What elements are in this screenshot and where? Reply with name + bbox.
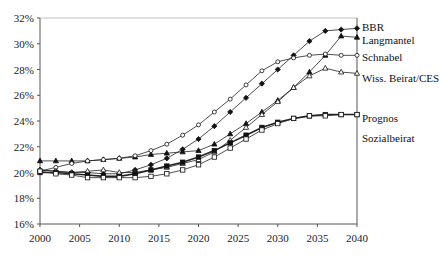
open-square-marker-icon — [133, 175, 137, 179]
open-square-marker-icon — [149, 174, 153, 178]
open-circle-marker-icon — [133, 154, 137, 158]
open-triangle-marker-icon — [323, 65, 328, 70]
open-circle-marker-icon — [355, 53, 359, 57]
line-chart: 16%18%20%22%24%26%28%30%32%2000200520102… — [0, 0, 440, 260]
series-group — [37, 26, 359, 180]
open-circle-marker-icon — [323, 52, 327, 56]
open-circle-marker-icon — [292, 56, 296, 60]
filled-square-marker-icon — [180, 160, 184, 164]
open-square-marker-icon — [339, 112, 343, 116]
open-circle-marker-icon — [165, 142, 169, 146]
filled-diamond-marker-icon — [323, 28, 328, 33]
filled-square-marker-icon — [165, 164, 169, 168]
filled-triangle-marker-icon — [37, 158, 42, 163]
y-tick-label: 30% — [14, 38, 34, 50]
y-tick-label: 32% — [14, 12, 34, 24]
open-square-marker-icon — [260, 128, 264, 132]
open-circle-marker-icon — [276, 60, 280, 64]
filled-triangle-marker-icon — [212, 141, 217, 146]
open-circle-marker-icon — [149, 149, 153, 153]
open-square-marker-icon — [323, 114, 327, 118]
legend: BBRLangmantelSchnabelWiss. Beirat/CESPro… — [362, 21, 439, 144]
y-tick-label: 16% — [14, 218, 34, 230]
open-circle-marker-icon — [260, 69, 264, 73]
y-tick-label: 26% — [14, 89, 34, 101]
open-square-marker-icon — [85, 175, 89, 179]
open-circle-marker-icon — [101, 158, 105, 162]
legend-label-wiss-beirat-ces: Wiss. Beirat/CES — [362, 72, 439, 84]
filled-diamond-marker-icon — [354, 26, 359, 31]
open-circle-marker-icon — [307, 53, 311, 57]
y-tick-label: 24% — [14, 115, 34, 127]
legend-label-langmantel: Langmantel — [362, 34, 415, 46]
y-tick-label: 22% — [14, 141, 34, 153]
filled-triangle-marker-icon — [228, 131, 233, 136]
open-square-marker-icon — [70, 173, 74, 177]
x-tick-label: 2000 — [29, 232, 52, 244]
series-langmantel — [37, 33, 359, 163]
filled-diamond-marker-icon — [339, 27, 344, 32]
open-square-marker-icon — [291, 116, 295, 120]
open-square-marker-icon — [307, 114, 311, 118]
filled-square-marker-icon — [149, 168, 153, 172]
series-prognos — [38, 112, 359, 178]
filled-square-marker-icon — [196, 155, 200, 159]
open-square-marker-icon — [212, 155, 216, 159]
x-tick-label: 2025 — [227, 232, 250, 244]
open-square-marker-icon — [180, 168, 184, 172]
x-tick-label: 2005 — [69, 232, 92, 244]
open-square-marker-icon — [117, 175, 121, 179]
open-circle-marker-icon — [181, 133, 185, 137]
y-tick-label: 20% — [14, 167, 34, 179]
legend-label-prognos: Prognos — [362, 112, 398, 124]
x-tick-label: 2015 — [148, 232, 171, 244]
open-circle-marker-icon — [117, 156, 121, 160]
open-circle-marker-icon — [86, 159, 90, 163]
y-tick-label: 28% — [14, 64, 34, 76]
x-tick-label: 2040 — [346, 232, 369, 244]
open-square-marker-icon — [276, 121, 280, 125]
filled-triangle-marker-icon — [339, 33, 344, 38]
open-circle-marker-icon — [197, 123, 201, 127]
filled-triangle-marker-icon — [53, 158, 58, 163]
open-square-marker-icon — [54, 172, 58, 176]
x-tick-label: 2020 — [188, 232, 211, 244]
open-circle-marker-icon — [244, 83, 248, 87]
filled-square-marker-icon — [228, 141, 232, 145]
x-tick-label: 2030 — [267, 232, 290, 244]
open-circle-marker-icon — [228, 97, 232, 101]
open-triangle-marker-icon — [101, 167, 106, 172]
open-square-marker-icon — [165, 172, 169, 176]
open-square-marker-icon — [196, 163, 200, 167]
axes: 16%18%20%22%24%26%28%30%32%2000200520102… — [14, 12, 369, 244]
open-square-marker-icon — [38, 169, 42, 173]
open-square-marker-icon — [244, 137, 248, 141]
open-circle-marker-icon — [212, 110, 216, 114]
legend-label-schnabel: Schnabel — [362, 51, 402, 63]
y-tick-label: 18% — [14, 192, 34, 204]
filled-square-marker-icon — [212, 148, 216, 152]
open-square-marker-icon — [101, 175, 105, 179]
legend-label-bbr: BBR — [362, 21, 385, 33]
open-circle-marker-icon — [339, 53, 343, 57]
open-circle-marker-icon — [70, 161, 74, 165]
x-tick-label: 2010 — [108, 232, 131, 244]
x-tick-label: 2035 — [306, 232, 329, 244]
open-square-marker-icon — [355, 112, 359, 116]
open-square-marker-icon — [228, 146, 232, 150]
series-bbr — [37, 26, 359, 177]
legend-label-sozialbeirat: Sozialbeirat — [362, 132, 415, 144]
filled-diamond-marker-icon — [164, 156, 169, 161]
